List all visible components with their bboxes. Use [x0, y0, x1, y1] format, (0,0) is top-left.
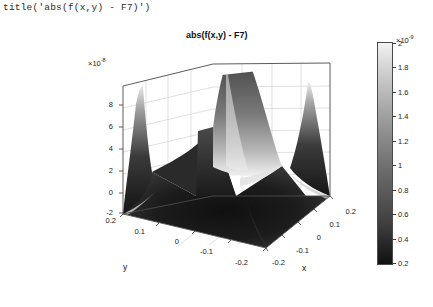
colorbar-tick-6: [393, 190, 396, 191]
x-tick-label-4: 0.2: [336, 207, 356, 216]
colorbar[interactable]: [377, 42, 393, 265]
colorbar-tick-label-2: 1.6: [398, 88, 408, 97]
colorbar-tick-9: [393, 263, 396, 264]
colorbar-tick-label-0: 2: [398, 39, 402, 48]
colorbar-tick-8: [393, 239, 396, 240]
z-tick-label-1: 6: [100, 122, 113, 131]
colorbar-tick-label-4: 1.2: [398, 137, 408, 146]
x-axis-label: x: [302, 263, 306, 273]
y-axis-label: y: [123, 262, 127, 272]
colorbar-tick-label-3: 1.4: [398, 112, 408, 121]
z-axis-ticks: [119, 105, 123, 213]
y-tick-label-1: 0.1: [125, 227, 145, 236]
colorbar-tick-1: [393, 67, 396, 68]
y-tick-label-2: 0: [166, 237, 179, 246]
colorbar-tick-label-8: 0.4: [398, 235, 408, 244]
colorbar-tick-7: [393, 214, 396, 215]
colorbar-tick-0: [393, 43, 396, 44]
colorbar-tick-3: [393, 116, 396, 117]
z-tick-label-4: 0: [100, 188, 113, 197]
z-tick-label-2: 4: [100, 144, 113, 153]
colorbar-tick-label-6: 0.8: [398, 186, 408, 195]
figure-canvas: abs(f(x,y) - F7) ×10-8: [0, 0, 433, 307]
x-tick-label-0: -0.2: [262, 258, 285, 267]
colorbar-exponent-power: -9: [409, 34, 414, 40]
surface-plot-svg: [0, 0, 433, 307]
y-tick-label-3: -0.1: [190, 247, 213, 256]
z-tick-label-0: 8: [100, 100, 113, 109]
y-tick-label-0: 0.2: [96, 216, 116, 225]
colorbar-tick-5: [393, 165, 396, 166]
colorbar-tick-4: [393, 141, 396, 142]
x-tick-label-3: 0.1: [320, 220, 340, 229]
y-tick-label-4: -0.2: [225, 258, 248, 267]
colorbar-tick-2: [393, 92, 396, 93]
colorbar-tick-label-9: 0.2: [398, 259, 408, 268]
z-tick-label-3: 2: [100, 166, 113, 175]
colorbar-tick-label-5: 1: [398, 161, 402, 170]
x-tick-label-2: 0: [308, 233, 321, 242]
colorbar-tick-label-1: 1.8: [398, 63, 408, 72]
x-tick-label-1: -0.1: [286, 246, 309, 255]
colorbar-tick-label-7: 0.6: [398, 210, 408, 219]
